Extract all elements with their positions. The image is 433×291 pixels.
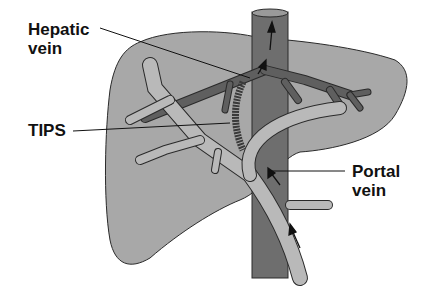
- label-tips: TIPS: [28, 121, 66, 140]
- label-hepatic-vein: Hepatic vein: [28, 20, 89, 58]
- label-hepatic-vein-line2: vein: [28, 39, 89, 58]
- label-portal-vein-line1: Portal: [352, 162, 400, 181]
- ivc-opening: [252, 9, 288, 17]
- label-portal-vein: Portal vein: [352, 162, 400, 200]
- label-portal-vein-line2: vein: [352, 181, 400, 200]
- label-hepatic-vein-line1: Hepatic: [28, 20, 89, 39]
